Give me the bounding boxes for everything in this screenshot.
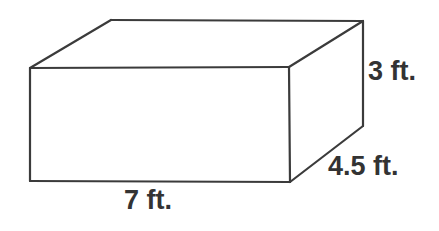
dimension-label-width: 7 ft. (124, 187, 172, 214)
dimension-label-depth: 4.5 ft. (328, 153, 399, 180)
edge-front-top (30, 67, 289, 68)
edge-front-right (289, 67, 290, 182)
dimension-label-height: 3 ft. (368, 58, 416, 85)
prism-figure: 3 ft. 4.5 ft. 7 ft. (0, 0, 439, 231)
rectangular-prism-drawing (0, 0, 439, 231)
edge-back-top (111, 20, 363, 21)
edge-front-bottom (30, 181, 290, 182)
prism-front-face (30, 67, 290, 182)
